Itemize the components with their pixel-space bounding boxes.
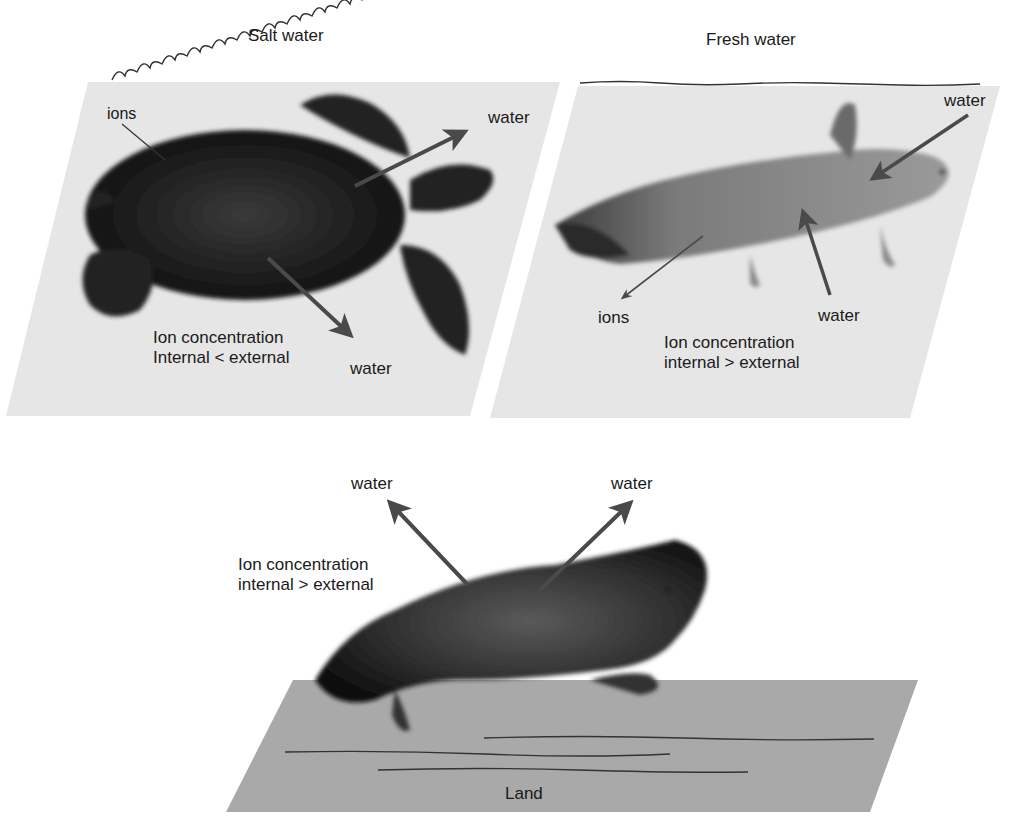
land-concentration-line1: Ion concentration (238, 555, 374, 575)
fresh-water-concentration: Ion concentration internal > external (664, 333, 800, 373)
salt-water-concentration-line1: Ion concentration (153, 328, 290, 348)
salt-water-water-label-2: water (350, 359, 392, 379)
fresh-water-concentration-line2: internal > external (664, 353, 800, 373)
fresh-water-ions-label: ions (598, 308, 629, 328)
salt-water-title: Salt water (248, 26, 324, 46)
salt-water-ions-label: ions (107, 104, 136, 124)
fresh-water-title: Fresh water (706, 30, 796, 50)
land-arrow-out-1 (395, 508, 468, 585)
salt-water-concentration: Ion concentration Internal < external (153, 328, 290, 368)
land-concentration-line2: internal > external (238, 575, 374, 595)
land-water-label-2: water (611, 474, 653, 494)
land-panel (226, 508, 918, 812)
fresh-water-surface (580, 82, 980, 86)
land-water-label-1: water (351, 474, 393, 494)
land-concentration: Ion concentration internal > external (238, 555, 374, 595)
fresh-water-water-label-1: water (944, 91, 986, 111)
fresh-water-concentration-line1: Ion concentration (664, 333, 800, 353)
salt-water-water-label-1: water (488, 108, 530, 128)
fresh-water-water-label-2: water (818, 306, 860, 326)
land-title: Land (505, 784, 543, 804)
salt-water-concentration-line2: Internal < external (153, 348, 290, 368)
